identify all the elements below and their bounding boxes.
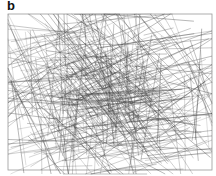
line-network-figure xyxy=(0,0,216,176)
line-segments xyxy=(8,14,212,174)
